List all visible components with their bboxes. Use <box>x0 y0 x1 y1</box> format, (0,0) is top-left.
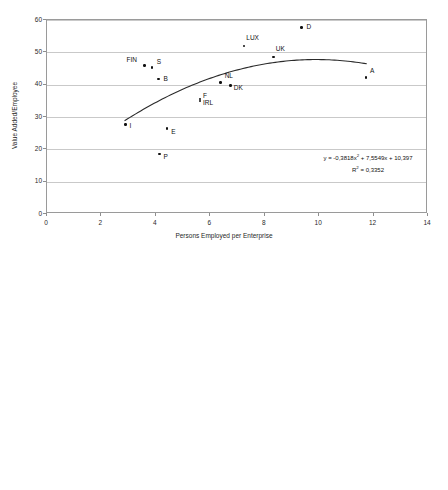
y-tick-mark <box>43 51 46 52</box>
y-tick-mark <box>43 148 46 149</box>
x-tick-mark <box>427 213 428 216</box>
data-point-label: LUX <box>246 34 259 41</box>
y-tick-label: 20 <box>20 145 42 152</box>
r-squared-line: R2 = 0,3352 <box>309 163 427 175</box>
x-tick-label: 8 <box>252 219 276 226</box>
data-point <box>143 64 145 66</box>
data-point <box>300 26 302 28</box>
x-tick-mark <box>209 213 210 216</box>
y-tick-mark <box>43 84 46 85</box>
data-point-label: E <box>171 128 175 135</box>
x-tick-label: 6 <box>197 219 221 226</box>
data-point <box>151 66 153 68</box>
y-tick-mark <box>43 19 46 20</box>
equation-line: y = -0,3818x2 + 7,5549x + 10,397 <box>309 151 427 163</box>
y-tick-label: 0 <box>20 210 42 217</box>
data-point <box>365 76 367 78</box>
x-tick-label: 2 <box>88 219 112 226</box>
data-point-label: A <box>370 67 374 74</box>
x-axis-title: Persons Employed per Enterprise <box>0 232 448 239</box>
data-point <box>158 153 160 155</box>
x-tick-mark <box>264 213 265 216</box>
data-point-label: P <box>163 153 167 160</box>
scatter-chart-gross-operating-rate: DAUKFIRLNLDKLUXFINEBSIP02468101214051015… <box>0 245 448 490</box>
y-tick-label: 10 <box>20 177 42 184</box>
data-point <box>124 123 126 125</box>
data-point-label: DK <box>234 84 243 91</box>
x-tick-label: 10 <box>306 219 330 226</box>
data-point-label: B <box>164 75 168 82</box>
y-tick-label: 60 <box>20 16 42 23</box>
x-tick-mark <box>100 213 101 216</box>
x-tick-label: 12 <box>361 219 385 226</box>
y-tick-label: 30 <box>20 113 42 120</box>
data-point-label: S <box>157 58 161 65</box>
y-tick-mark <box>43 181 46 182</box>
y-tick-label: 50 <box>20 48 42 55</box>
data-point <box>229 84 231 86</box>
x-tick-label: 14 <box>415 219 439 226</box>
data-point-label: IRL <box>203 99 213 106</box>
y-tick-label: 40 <box>20 80 42 87</box>
x-tick-mark <box>373 213 374 216</box>
trendline-equation-annotation: y = -0,3818x2 + 7,5549x + 10,397R2 = 0,3… <box>309 151 427 175</box>
data-point-label: D <box>306 23 311 30</box>
data-point-label: I <box>129 122 131 129</box>
trendline <box>47 20 428 214</box>
data-point-label: F <box>203 92 207 99</box>
x-tick-label: 0 <box>34 219 58 226</box>
data-point-label: FIN <box>126 56 136 63</box>
plot-area: IFINSBEPFIRLNLDKLUXUKDA <box>46 19 427 213</box>
data-point-label: NL <box>225 72 233 79</box>
superscript: 2 <box>356 165 358 170</box>
x-tick-mark <box>155 213 156 216</box>
superscript: 2 <box>357 153 359 158</box>
data-point <box>219 81 221 83</box>
x-tick-mark <box>318 213 319 216</box>
x-tick-label: 4 <box>143 219 167 226</box>
x-tick-mark <box>46 213 47 216</box>
scatter-chart-value-added-per-employee: IFINSBEPFIRLNLDKLUXUKDA01020304050600246… <box>0 0 448 245</box>
y-axis-title: Value Added/Employee <box>11 76 18 156</box>
data-point-label: UK <box>276 45 285 52</box>
y-tick-mark <box>43 116 46 117</box>
